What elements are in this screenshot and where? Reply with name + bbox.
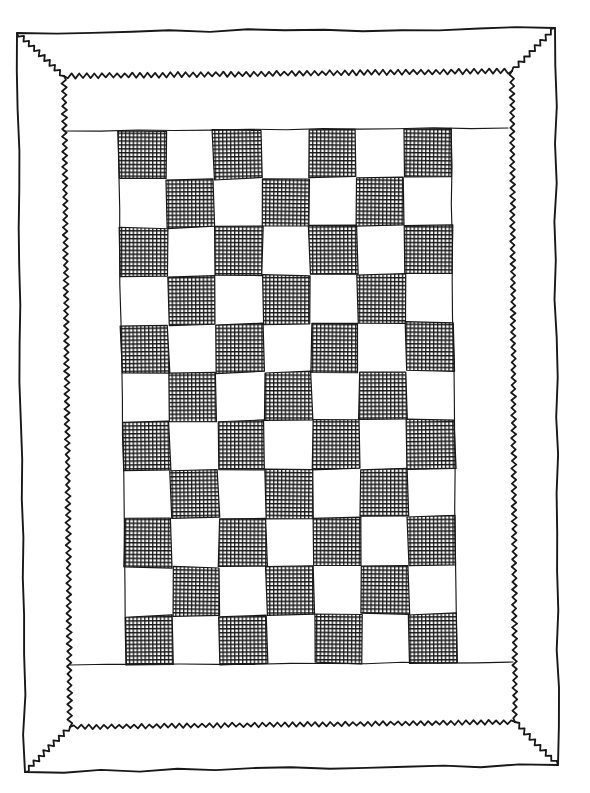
- checkerboard-dark-patch: [124, 518, 173, 568]
- checkerboard-dark-patch: [266, 566, 315, 616]
- checkerboard-dark-patch: [214, 226, 263, 276]
- checkerboard-dark-patch: [216, 323, 265, 373]
- checkerboard-dark-patch: [314, 614, 362, 664]
- checkerboard-dark-patch: [169, 372, 217, 422]
- checkerboard-dark-patch: [264, 371, 312, 420]
- checkerboard-dark-patch: [118, 131, 167, 179]
- checkerboard-right-edge: [451, 128, 457, 662]
- checkerboard-dark-patch: [308, 225, 358, 274]
- checkerboard-dark-patch: [212, 129, 262, 180]
- stitch-top-zigzag: [64, 69, 512, 79]
- checkerboard-dark-patch: [360, 468, 409, 516]
- checkerboard-dark-patch: [120, 325, 170, 373]
- checkerboard-dark-patch: [311, 323, 358, 373]
- stitch-miter-top-left-zigzag: [17, 33, 64, 76]
- checkerboard-dark-patch: [356, 177, 404, 227]
- stitch-left-zigzag: [62, 76, 73, 727]
- checkerboard-dark-patch: [218, 420, 264, 470]
- checkerboard-dark-patch: [168, 276, 215, 326]
- checkerboard-dark-patch: [357, 273, 406, 323]
- checkerboard-dark-patch: [405, 322, 455, 372]
- checkerboard-dark-patch: [407, 515, 455, 565]
- checkerboard-dark-patch: [403, 128, 452, 177]
- stitch-right-zigzag: [510, 71, 518, 722]
- checkerboard-left-edge: [118, 131, 126, 665]
- checkerboard-dark-patch: [408, 613, 457, 664]
- checkerboard-dark-patch: [173, 566, 221, 617]
- checkerboard-dark-patch: [312, 420, 360, 470]
- checkerboard-dark-patch: [262, 275, 310, 325]
- checkerboard-dark-patch: [170, 470, 220, 519]
- checkerboard-dark-patch: [404, 225, 453, 274]
- stitch-miter-top-right-zigzag: [512, 28, 555, 71]
- checkerboard-dark-patch: [123, 421, 171, 471]
- checkerboard-dark-patch: [125, 615, 173, 665]
- quilt-illustration: [0, 0, 590, 793]
- checkerboard-dark-patch: [262, 178, 310, 226]
- checkerboard-dark-patch: [313, 517, 361, 566]
- checkerboard-dark-patch: [218, 518, 267, 566]
- stitch-miter-bottom-right-zigzag: [515, 722, 558, 765]
- checkerboard-dark-patch: [166, 179, 215, 229]
- checkerboard-dark-patch: [119, 227, 168, 276]
- quilt-drawing-svg: [0, 0, 590, 793]
- stitch-bottom-zigzag: [70, 720, 515, 729]
- checkerboard-dark-patch: [264, 469, 313, 519]
- checkerboard-dark-patch: [358, 372, 407, 420]
- checkerboard-field: [118, 128, 458, 665]
- checkerboard-dark-patch: [309, 129, 356, 178]
- stitch-miter-bottom-left-zigzag: [25, 727, 70, 772]
- checkerboard-dark-patch: [219, 615, 268, 665]
- checkerboard-dark-patch: [406, 419, 456, 470]
- checkerboard-dark-patch: [361, 565, 410, 614]
